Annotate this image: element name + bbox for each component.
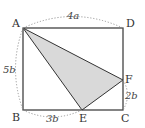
dimension-label-be: 3b xyxy=(46,113,59,124)
label-a: A xyxy=(11,17,21,30)
dimension-label-ad: 4a xyxy=(66,10,79,21)
label-b: B xyxy=(12,111,20,124)
shaded-triangle-aef xyxy=(23,28,123,110)
geometry-figure: A D B C E F 4a 5b 3b 2b xyxy=(0,0,145,128)
dimension-arc-ab xyxy=(16,28,24,110)
label-e: E xyxy=(79,112,87,125)
dimension-label-ab: 5b xyxy=(3,64,16,75)
label-c: C xyxy=(121,112,129,125)
label-f: F xyxy=(125,73,133,86)
label-d: D xyxy=(126,17,135,30)
dimension-label-fc: 2b xyxy=(124,90,138,101)
